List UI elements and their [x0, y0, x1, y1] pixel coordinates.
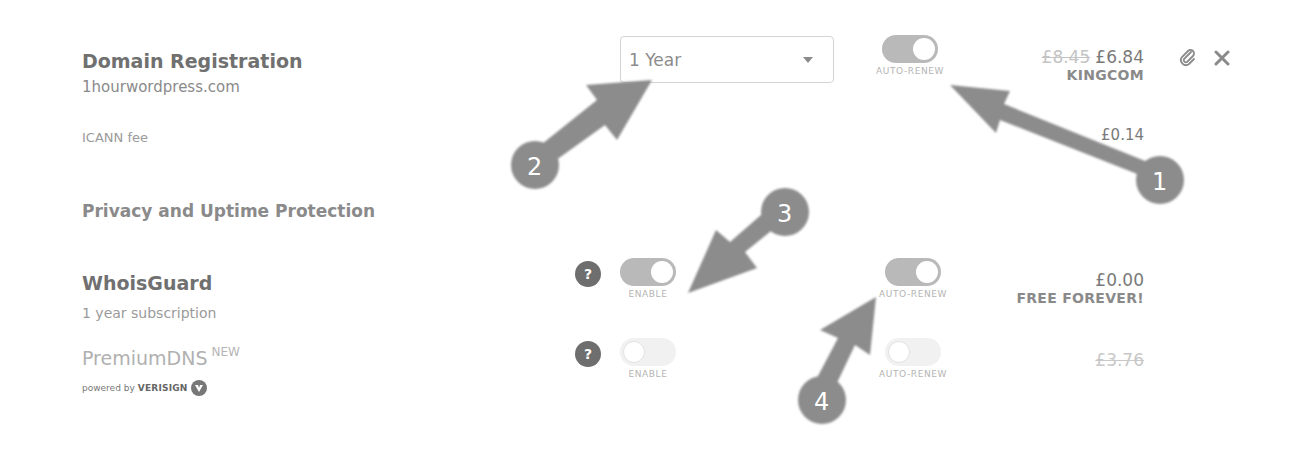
whoisguard-subtitle: 1 year subscription [82, 305, 216, 321]
premiumdns-help-icon[interactable]: ? [575, 341, 601, 367]
premiumdns-price: £3.76 [1095, 350, 1144, 370]
premiumdns-auto-renew[interactable]: AUTO-RENEW [878, 338, 948, 379]
domain-auto-renew[interactable]: AUTO-RENEW [878, 35, 942, 76]
auto-renew-label: AUTO-RENEW [879, 289, 947, 299]
annotation-badge-2: 2 [527, 153, 542, 181]
auto-renew-label: AUTO-RENEW [879, 369, 947, 379]
powered-by-label: powered by [82, 383, 135, 393]
remove-close-icon[interactable] [1210, 46, 1234, 70]
annotation-arrow-1 [950, 85, 1184, 204]
domain-name: 1hourwordpress.com [82, 78, 240, 96]
annotation-arrow-4 [798, 297, 876, 424]
whoisguard-enable-toggle[interactable] [620, 258, 676, 286]
premiumdns-enable-toggle[interactable] [620, 338, 676, 366]
paperclip-icon[interactable] [1176, 46, 1200, 70]
premiumdns-enable[interactable]: ENABLE [616, 338, 680, 379]
premiumdns-name: PremiumDNS [82, 347, 207, 369]
whoisguard-price-value: £0.00 [1016, 270, 1144, 290]
toggle-knob [916, 261, 938, 283]
premiumdns-title: PremiumDNSNEW [82, 347, 240, 369]
close-icon [1214, 50, 1230, 66]
enable-label: ENABLE [628, 289, 667, 299]
toggle-knob [913, 38, 935, 60]
whoisguard-help-icon[interactable]: ? [575, 261, 601, 287]
whoisguard-enable[interactable]: ENABLE [616, 258, 680, 299]
new-badge: NEW [211, 345, 239, 359]
toggle-knob [651, 261, 673, 283]
icann-fee-label: ICANN fee [82, 130, 148, 145]
chevron-down-icon [803, 57, 813, 63]
domain-price-current: £6.84 [1095, 47, 1144, 67]
verisign-brand: VERISIGN [138, 383, 188, 393]
annotation-arrow-2 [511, 80, 652, 189]
auto-renew-label: AUTO-RENEW [876, 66, 944, 76]
whoisguard-title: WhoisGuard [82, 272, 212, 294]
annotation-badge-1: 1 [1152, 168, 1167, 196]
annotation-arrow-3 [688, 188, 809, 293]
whoisguard-auto-renew-toggle[interactable] [885, 258, 941, 286]
registration-period-value: 1 Year [629, 50, 681, 70]
domain-registration-title: Domain Registration [82, 50, 303, 72]
premiumdns-auto-renew-toggle[interactable] [885, 338, 941, 366]
powered-by-verisign: powered by VERISIGN [82, 380, 207, 396]
privacy-section-title: Privacy and Uptime Protection [82, 201, 375, 221]
icann-fee-price: £0.14 [1101, 126, 1144, 144]
annotation-badge-4: 4 [814, 388, 829, 416]
promo-code: KINGCOM [1042, 67, 1144, 83]
registration-period-select[interactable]: 1 Year [620, 36, 834, 83]
annotation-badge-3: 3 [777, 200, 792, 228]
domain-auto-renew-toggle[interactable] [882, 35, 938, 63]
domain-price: £8.45 £6.84 KINGCOM [1042, 47, 1144, 83]
enable-label: ENABLE [628, 369, 667, 379]
toggle-knob [888, 341, 910, 363]
whoisguard-auto-renew[interactable]: AUTO-RENEW [878, 258, 948, 299]
whoisguard-promo: FREE FOREVER! [1016, 290, 1144, 306]
verisign-logo-icon [191, 380, 207, 396]
toggle-knob [623, 341, 645, 363]
paperclip-icon-svg [1178, 48, 1198, 68]
whoisguard-price: £0.00 FREE FOREVER! [1016, 270, 1144, 306]
domain-price-old: £8.45 [1042, 47, 1091, 67]
